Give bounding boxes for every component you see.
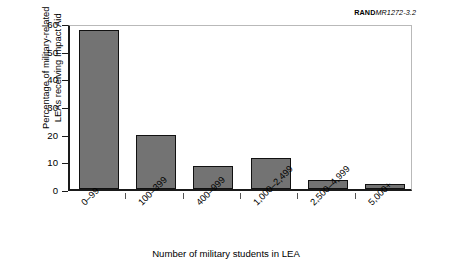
x-axis-tick (125, 193, 126, 199)
bar-chart-figure: RANDMR1272-3.2 Percentage of military-re… (0, 0, 452, 267)
plot-area (68, 25, 412, 191)
y-axis-tick (62, 53, 68, 54)
y-axis-tick (62, 108, 68, 109)
bars-layer (70, 26, 411, 189)
x-axis-tick (297, 193, 298, 199)
y-axis-tick (62, 191, 68, 192)
y-axis-tick-label: 30 (34, 103, 58, 113)
rand-document-label: MR1272-3.2 (375, 8, 416, 17)
x-axis-title: Number of military students in LEA (0, 248, 452, 259)
x-axis-tick (240, 193, 241, 199)
y-axis-tick-label: 60 (34, 20, 58, 30)
y-axis-tick-label: 20 (34, 131, 58, 141)
y-axis-tick-label: 0 (34, 186, 58, 196)
y-axis-tick-label: 40 (34, 75, 58, 85)
y-axis-tick (62, 136, 68, 137)
rand-brand-label: RAND (354, 8, 375, 17)
bar (79, 30, 119, 189)
rand-source-tag: RANDMR1272-3.2 (354, 8, 416, 17)
y-axis-tick (62, 25, 68, 26)
y-axis-tick (62, 80, 68, 81)
y-axis-tick-label: 50 (34, 48, 58, 58)
y-axis-tick-label: 10 (34, 158, 58, 168)
x-axis-tick (355, 193, 356, 199)
y-axis-tick (62, 163, 68, 164)
x-axis-tick (183, 193, 184, 199)
